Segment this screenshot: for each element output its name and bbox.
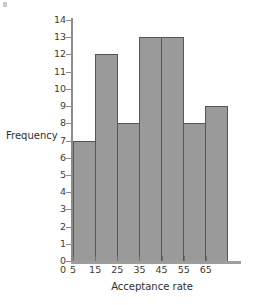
- x-tick-mark: [162, 256, 163, 261]
- bar: [161, 37, 184, 261]
- x-tick-mark: [95, 256, 96, 261]
- y-tick-label: 4: [0, 187, 66, 197]
- bar: [95, 54, 118, 261]
- bar: [205, 106, 228, 261]
- y-tick-label: 5: [0, 170, 66, 180]
- y-tick-label: 1: [0, 239, 66, 249]
- x-tick-mark: [73, 256, 74, 261]
- y-tick-label: 6: [0, 153, 66, 163]
- y-tick-label: 7: [0, 136, 66, 146]
- plot-area: [73, 20, 228, 261]
- bar-series: [73, 20, 228, 261]
- x-tick-mark: [139, 256, 140, 261]
- y-tick-label: 0: [0, 256, 66, 266]
- y-tick-label: 8: [0, 118, 66, 128]
- x-tick-label: 25: [111, 265, 123, 275]
- y-tick-label: 10: [0, 84, 66, 94]
- y-tick-label: 13: [0, 32, 66, 42]
- y-tick-label: 3: [0, 204, 66, 214]
- x-tick-label: 5: [70, 265, 76, 275]
- x-axis-title: Acceptance rate: [73, 282, 231, 292]
- x-tick-label: 65: [200, 265, 212, 275]
- y-tick-label: 2: [0, 222, 66, 232]
- x-tick-mark: [206, 256, 207, 261]
- y-tick-label: 12: [0, 49, 66, 59]
- x-tick-label: 15: [89, 265, 101, 275]
- bar: [117, 123, 140, 261]
- bar: [139, 37, 162, 261]
- bar: [183, 123, 206, 261]
- x-tick-mark: [117, 256, 118, 261]
- x-tick-label: 55: [178, 265, 190, 275]
- x-tick-label: 0: [60, 265, 66, 275]
- histogram-figure: Frequency 01234567891011121314 051525354…: [0, 0, 263, 305]
- x-tick-label: 35: [133, 265, 145, 275]
- x-tick-label: 45: [156, 265, 168, 275]
- x-tick-mark: [184, 256, 185, 261]
- scan-artifact: [3, 2, 7, 7]
- y-tick-label: 11: [0, 67, 66, 77]
- y-tick-label: 14: [0, 15, 66, 25]
- bar: [73, 141, 96, 262]
- y-tick-label: 9: [0, 101, 66, 111]
